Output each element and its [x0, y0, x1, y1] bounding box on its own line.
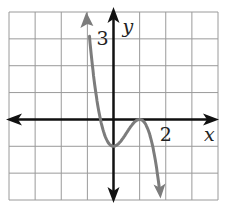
- y-axis-label: y: [122, 15, 134, 37]
- y-tick-label-3: 3: [97, 27, 109, 49]
- x-axis-label: x: [204, 123, 215, 145]
- graph: 3 2 x y: [0, 0, 225, 205]
- plot-area: [80, 12, 165, 198]
- series-line: [90, 36, 160, 189]
- x-tick-label-2: 2: [160, 123, 172, 145]
